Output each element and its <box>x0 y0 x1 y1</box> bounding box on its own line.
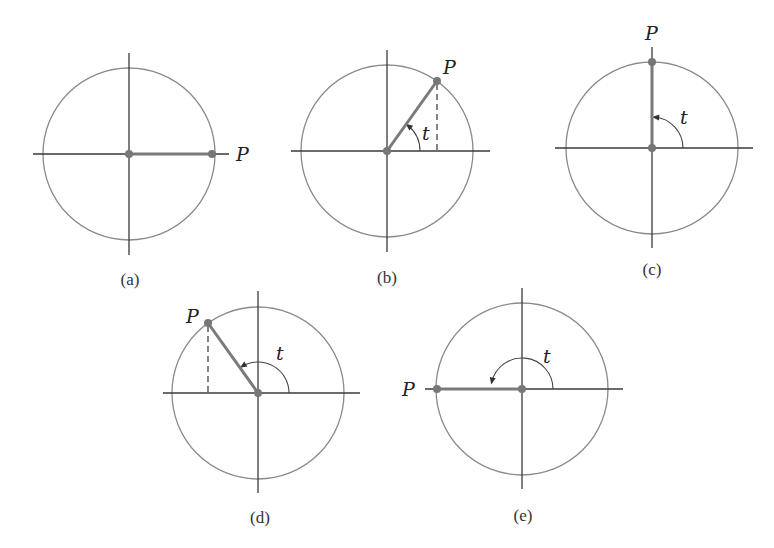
radius-segment <box>208 323 258 393</box>
diagram-c: Pt(c) <box>555 22 753 279</box>
diagram-caption: (d) <box>250 508 270 527</box>
point-p-label: P <box>644 22 659 44</box>
point-p <box>648 58 656 66</box>
diagram-b: Pt(b) <box>291 50 490 287</box>
unit-circle-figure: P(a)Pt(b)Pt(c)Pt(d)Pt(e) <box>0 0 774 548</box>
angle-t-label: t <box>680 106 688 128</box>
angle-arc <box>654 117 683 148</box>
origin-point <box>383 147 391 155</box>
point-p-label: P <box>442 56 457 78</box>
diagram-a: P(a) <box>33 53 250 289</box>
angle-t-label: t <box>276 342 284 364</box>
diagram-e: Pt(e) <box>401 288 623 525</box>
point-p-label: P <box>235 143 250 165</box>
point-p-label: P <box>185 305 200 327</box>
point-p <box>204 319 212 327</box>
point-p <box>433 77 441 85</box>
origin-point <box>125 150 133 158</box>
angle-t-label: t <box>543 345 551 367</box>
diagram-d: Pt(d) <box>163 291 360 527</box>
origin-point <box>254 389 262 397</box>
origin-point <box>648 144 656 152</box>
diagram-caption: (e) <box>514 506 533 525</box>
angle-t-label: t <box>422 122 430 144</box>
point-p <box>433 385 441 393</box>
point-p-label: P <box>401 378 416 400</box>
diagram-caption: (a) <box>121 270 140 289</box>
diagram-caption: (b) <box>377 268 397 287</box>
arrowhead-icon <box>490 377 496 384</box>
origin-point <box>518 385 526 393</box>
diagram-caption: (c) <box>643 260 662 279</box>
point-p <box>208 150 216 158</box>
